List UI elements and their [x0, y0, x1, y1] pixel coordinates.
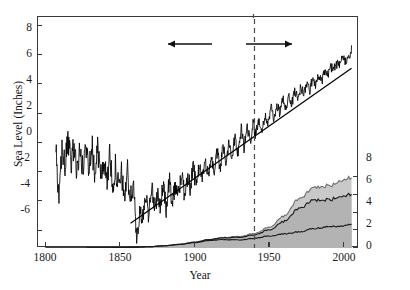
y-tick-left-neg2: -2	[8, 152, 30, 164]
x-tick-mark-0	[45, 242, 46, 247]
y-tick-left-6: 6	[10, 48, 32, 60]
x-tick-1800: 1800	[22, 252, 68, 264]
y-tick-right-2: 2	[366, 218, 388, 230]
y-tick-mark-left-7	[37, 230, 42, 231]
x-tick-mark-4	[343, 242, 344, 247]
y-tick-mark-left-5	[37, 171, 42, 172]
y-tick-mark-left-2	[37, 83, 42, 84]
y-tick-mark-left-6	[37, 200, 42, 201]
x-tick-mark-2	[194, 242, 195, 247]
y-tick-left-neg6: -6	[8, 204, 30, 216]
y-tick-mark-right-1	[353, 194, 358, 195]
sea-level-emissions-figure: Sea Level (Inches) Annual Carbon Emissio…	[0, 0, 410, 290]
y-tick-right-0: 0	[366, 240, 388, 252]
y-tick-mark-left-3	[37, 113, 42, 114]
x-tick-1900: 1900	[172, 252, 218, 264]
x-tick-1850: 1850	[97, 252, 143, 264]
y-tick-mark-right-4	[353, 247, 358, 248]
x-axis-title: Year	[150, 269, 250, 281]
y-tick-mark-left-0	[37, 25, 42, 26]
y-tick-left-2: 2	[10, 100, 32, 112]
y-tick-mark-right-3	[353, 229, 358, 230]
y-tick-mark-right-0	[353, 176, 358, 177]
x-tick-mark-1	[119, 242, 120, 247]
y-tick-mark-left-1	[37, 54, 42, 55]
y-tick-right-4: 4	[366, 196, 388, 208]
y-tick-left-0: 0	[10, 126, 32, 138]
x-tick-2000: 2000	[321, 252, 367, 264]
y-tick-left-8: 8	[10, 22, 32, 34]
y-tick-right-6: 6	[366, 174, 388, 186]
y-tick-mark-left-4	[37, 142, 42, 143]
y-tick-mark-right-2	[353, 212, 358, 213]
y-tick-left-neg4: -4	[8, 178, 30, 190]
y-tick-right-8: 8	[366, 152, 388, 164]
x-tick-1950: 1950	[246, 252, 292, 264]
y-tick-left-4: 4	[10, 74, 32, 86]
x-tick-mark-3	[268, 242, 269, 247]
plot-canvas	[38, 17, 359, 248]
plot-area	[37, 16, 358, 247]
